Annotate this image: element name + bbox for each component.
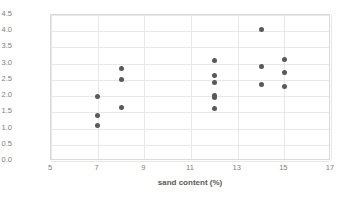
x-tick-label: 5 xyxy=(35,164,65,172)
y-tick-label: 1.0 xyxy=(0,124,12,132)
gridline-horizontal xyxy=(51,64,329,65)
data-point xyxy=(95,94,100,99)
x-tick-label: 11 xyxy=(175,164,205,172)
y-tick-label: 0.5 xyxy=(0,140,12,148)
data-point xyxy=(212,93,217,98)
data-point xyxy=(212,73,217,78)
scatter-chart: UCS (MPa) 0.00.51.01.52.02.53.03.54.04.5… xyxy=(0,0,346,200)
y-tick-label: 0.0 xyxy=(0,156,12,164)
x-tick-label: 7 xyxy=(82,164,112,172)
y-tick-label: 2.0 xyxy=(0,91,12,99)
data-point xyxy=(212,80,217,85)
x-tick-label: 15 xyxy=(268,164,298,172)
data-point xyxy=(259,82,264,87)
gridline-vertical xyxy=(144,15,145,159)
gridline-vertical xyxy=(238,15,239,159)
gridline-vertical xyxy=(51,15,52,159)
data-point xyxy=(119,105,124,110)
data-point xyxy=(282,84,287,89)
gridline-vertical xyxy=(191,15,192,159)
gridline-vertical xyxy=(331,15,332,159)
y-tick-label: 2.5 xyxy=(0,75,12,83)
y-tick-label: 1.5 xyxy=(0,107,12,115)
y-tick-label: 4.0 xyxy=(0,26,12,34)
data-point xyxy=(119,77,124,82)
data-point xyxy=(212,106,217,111)
y-tick-label: 3.5 xyxy=(0,42,12,50)
x-axis-title: sand content (%) xyxy=(50,178,330,187)
gridline-horizontal xyxy=(51,161,329,162)
gridline-vertical xyxy=(98,15,99,159)
y-tick-label: 4.5 xyxy=(0,10,12,18)
gridline-horizontal xyxy=(51,47,329,48)
gridline-horizontal xyxy=(51,96,329,97)
gridline-horizontal xyxy=(51,80,329,81)
gridline-horizontal xyxy=(51,112,329,113)
gridline-horizontal xyxy=(51,145,329,146)
x-tick-label: 13 xyxy=(222,164,252,172)
y-tick-label: 3.0 xyxy=(0,59,12,67)
data-point xyxy=(212,58,217,63)
plot-area xyxy=(50,14,330,160)
data-point xyxy=(282,70,287,75)
data-point xyxy=(95,113,100,118)
data-point xyxy=(259,64,264,69)
gridline-horizontal xyxy=(51,31,329,32)
data-point xyxy=(282,57,287,62)
x-tick-label: 9 xyxy=(128,164,158,172)
x-tick-label: 17 xyxy=(315,164,345,172)
gridline-horizontal xyxy=(51,15,329,16)
gridline-horizontal xyxy=(51,129,329,130)
data-point xyxy=(119,66,124,71)
